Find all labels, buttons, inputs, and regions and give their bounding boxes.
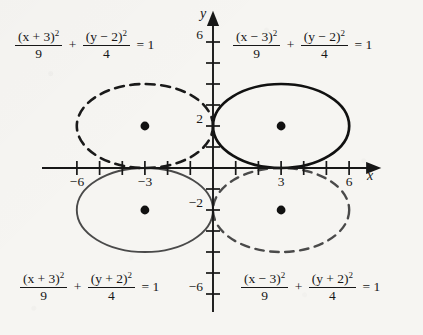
equation-bottom-left-denominator-1: 9 bbox=[20, 288, 67, 303]
equation-top-left-exp-2: 2 bbox=[123, 28, 128, 38]
equation-bottom-left-fraction-1: (x + 3)2 9 bbox=[20, 272, 67, 302]
x-axis-label: x bbox=[367, 168, 373, 184]
equation-bottom-right-plus: + bbox=[293, 280, 305, 294]
equation-bottom-right-fraction-1: (x − 3)2 9 bbox=[241, 272, 288, 302]
equation-top-right-numerator-1: (x − 3)2 bbox=[233, 30, 280, 46]
equation-top-left-numerator-2: (y − 2)2 bbox=[83, 30, 130, 46]
equation-top-left-equals: = 1 bbox=[134, 38, 156, 52]
x-tick-label-minus-6: −6 bbox=[62, 174, 92, 190]
y-tick-label-minus-6: −6 bbox=[175, 279, 203, 295]
equation-top-right-exp-1: 2 bbox=[273, 28, 278, 38]
y-axis-label: y bbox=[200, 6, 206, 22]
equation-top-left-exp-1: 2 bbox=[55, 28, 60, 38]
equation-top-right-exp-2: 2 bbox=[341, 28, 346, 38]
x-tick-label-6: 6 bbox=[338, 174, 360, 190]
equation-bottom-left-numerator-1: (x + 3)2 bbox=[20, 272, 67, 288]
equation-bottom-right-fraction-2: (y + 2)2 4 bbox=[309, 272, 356, 302]
y-tick-label-6: 6 bbox=[183, 27, 203, 43]
center-dot-top-left bbox=[141, 122, 150, 131]
equation-top-left-denominator-1: 9 bbox=[15, 46, 62, 61]
equation-top-right-equals: = 1 bbox=[352, 38, 374, 52]
center-dot-top-right bbox=[277, 122, 286, 131]
equation-bottom-left-equals: = 1 bbox=[139, 280, 161, 294]
equation-top-right: (x − 3)2 9 + (y − 2)2 4 = 1 bbox=[232, 30, 374, 60]
y-tick-label-minus-2: −2 bbox=[175, 195, 203, 211]
equation-bottom-left-denominator-2: 4 bbox=[88, 288, 135, 303]
equation-bottom-right: (x − 3)2 9 + (y + 2)2 4 = 1 bbox=[240, 272, 382, 302]
equation-bottom-left-exp-2: 2 bbox=[128, 270, 133, 280]
equation-top-left-numerator-1: (x + 3)2 bbox=[15, 30, 62, 46]
equation-bottom-right-numerator-2: (y + 2)2 bbox=[309, 272, 356, 288]
ellipse-figure: y x −6 −3 3 6 6 2 −2 −6 (x + 3)2 9 + (y … bbox=[0, 0, 423, 335]
equation-bottom-right-equals: = 1 bbox=[360, 280, 382, 294]
equation-bottom-left-fraction-2: (y + 2)2 4 bbox=[88, 272, 135, 302]
equation-top-left: (x + 3)2 9 + (y − 2)2 4 = 1 bbox=[14, 30, 156, 60]
equation-top-right-fraction-1: (x − 3)2 9 bbox=[233, 30, 280, 60]
equation-bottom-right-denominator-2: 4 bbox=[309, 288, 356, 303]
equation-bottom-right-exp-2: 2 bbox=[349, 270, 354, 280]
x-tick-label-3: 3 bbox=[270, 174, 292, 190]
equation-top-right-plus: + bbox=[285, 38, 297, 52]
x-tick-label-minus-3: −3 bbox=[130, 174, 160, 190]
equation-bottom-left-numerator-2: (y + 2)2 bbox=[88, 272, 135, 288]
equation-top-right-numerator-2: (y − 2)2 bbox=[301, 30, 348, 46]
equation-bottom-left: (x + 3)2 9 + (y + 2)2 4 = 1 bbox=[19, 272, 161, 302]
x-axis bbox=[42, 161, 368, 175]
equation-top-left-fraction-2: (y − 2)2 4 bbox=[83, 30, 130, 60]
equation-bottom-right-denominator-1: 9 bbox=[241, 288, 288, 303]
y-tick-label-2: 2 bbox=[183, 111, 203, 127]
equation-top-left-denominator-2: 4 bbox=[83, 46, 130, 61]
equation-top-left-fraction-1: (x + 3)2 9 bbox=[15, 30, 62, 60]
equation-bottom-left-plus: + bbox=[72, 280, 84, 294]
equation-top-right-denominator-1: 9 bbox=[233, 46, 280, 61]
equation-bottom-right-exp-1: 2 bbox=[281, 270, 286, 280]
equation-top-left-plus: + bbox=[67, 38, 79, 52]
center-dot-bottom-left bbox=[141, 206, 150, 215]
equation-top-right-denominator-2: 4 bbox=[301, 46, 348, 61]
center-dot-bottom-right bbox=[277, 206, 286, 215]
equation-top-right-fraction-2: (y − 2)2 4 bbox=[301, 30, 348, 60]
equation-bottom-right-numerator-1: (x − 3)2 bbox=[241, 272, 288, 288]
equation-bottom-left-exp-1: 2 bbox=[60, 270, 65, 280]
